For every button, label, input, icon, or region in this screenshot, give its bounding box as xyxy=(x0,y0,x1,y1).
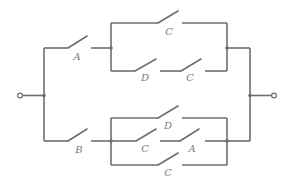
switch-label-upper-series: A xyxy=(72,51,80,62)
switch-upper-path2-s2-blade xyxy=(181,59,201,71)
switch-upper-series-blade xyxy=(68,36,87,48)
switch-label-lower-path2-s1: C xyxy=(141,143,149,154)
switch-label-lower-path2-s2: A xyxy=(187,143,195,154)
switch-lower-path2-s1-blade xyxy=(136,129,156,141)
switch-lower-path1-blade xyxy=(158,106,178,118)
switch-upper-path1-blade xyxy=(158,11,178,23)
switch-label-lower-path1: D xyxy=(163,120,172,131)
switch-label-upper-path2-s2: C xyxy=(186,72,194,83)
switch-label-upper-path2-s1: D xyxy=(140,72,149,83)
switch-label-lower-series: B xyxy=(74,144,82,155)
output-terminal xyxy=(272,93,277,98)
switch-lower-path2-s2-blade xyxy=(180,129,199,141)
switch-upper-path2-s1-blade xyxy=(135,59,156,71)
switch-label-upper-path1: C xyxy=(165,26,173,37)
input-terminal xyxy=(18,93,23,98)
switch-lower-series-blade xyxy=(68,129,87,141)
circuit-diagram: A C D C B D C A C xyxy=(0,0,293,185)
switch-lower-path3-blade xyxy=(158,153,178,165)
switch-label-lower-path3: C xyxy=(164,167,172,178)
